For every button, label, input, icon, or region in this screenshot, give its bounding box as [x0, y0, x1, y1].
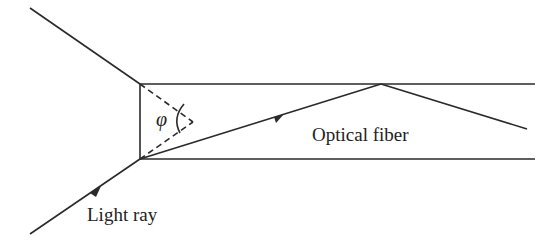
- optical-fiber-diagram: φ Optical fiber Light ray: [0, 0, 560, 246]
- diagram-graphics: [0, 0, 560, 246]
- light-ray-label: Light ray: [87, 204, 157, 226]
- optical-fiber-label: Optical fiber: [312, 124, 409, 146]
- acceptance-boundary-line: [30, 8, 140, 84]
- reflected-ray: [381, 84, 527, 129]
- angle-phi-label: φ: [156, 108, 167, 131]
